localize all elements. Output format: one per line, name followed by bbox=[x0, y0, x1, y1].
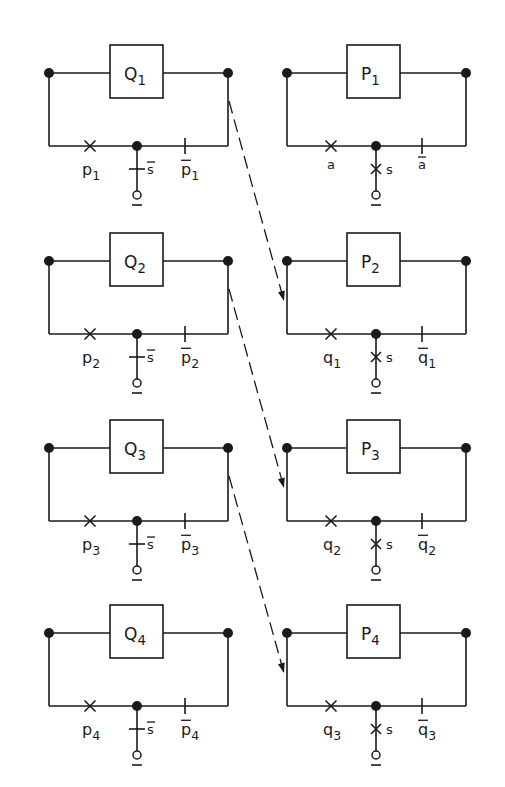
svg-text:s: s bbox=[386, 722, 393, 737]
svg-text:s: s bbox=[386, 350, 393, 365]
svg-text:s: s bbox=[147, 537, 154, 552]
terminal-icon bbox=[372, 379, 380, 387]
terminal-icon bbox=[133, 566, 141, 574]
svg-text:s: s bbox=[147, 350, 154, 365]
arrowhead-icon bbox=[278, 290, 285, 301]
relay-box bbox=[347, 45, 400, 98]
node-dot bbox=[223, 443, 233, 453]
svg-text:p4: p4 bbox=[181, 720, 199, 743]
svg-text:s: s bbox=[147, 722, 154, 737]
svg-text:p3: p3 bbox=[82, 535, 100, 558]
contact-label-right: p1 bbox=[181, 160, 199, 183]
arrowhead-icon bbox=[278, 662, 285, 673]
circuit-p4: P4q3sq3 bbox=[282, 605, 471, 765]
terminal-icon bbox=[133, 191, 141, 199]
arrowhead-icon bbox=[278, 477, 285, 488]
contact-label-left: p3 bbox=[82, 535, 100, 558]
circuit-p2: P2q1sq1 bbox=[282, 233, 471, 393]
node-dot bbox=[282, 443, 292, 453]
svg-text:q2: q2 bbox=[418, 535, 436, 558]
svg-text:p1: p1 bbox=[82, 160, 100, 183]
node-dot bbox=[461, 443, 471, 453]
svg-text:a: a bbox=[327, 157, 335, 172]
contact-label-left: q2 bbox=[323, 535, 341, 558]
terminal-icon bbox=[372, 751, 380, 759]
stub-label: s bbox=[147, 350, 155, 365]
node-dot bbox=[461, 628, 471, 638]
arrow-q3-to-p4 bbox=[229, 476, 285, 673]
node-dot bbox=[44, 628, 54, 638]
stub-label: s bbox=[147, 162, 155, 177]
node-dot bbox=[461, 68, 471, 78]
terminal-icon bbox=[372, 566, 380, 574]
svg-text:q1: q1 bbox=[323, 348, 341, 371]
contact-label-right: q2 bbox=[418, 535, 436, 558]
contact-label-right: q1 bbox=[418, 348, 436, 371]
circuit-q3: Q3p3sp3 bbox=[44, 420, 233, 580]
contact-label-left: p2 bbox=[82, 348, 100, 371]
arrow-q2-to-p3 bbox=[229, 289, 285, 488]
arrow-q1-to-p2 bbox=[229, 101, 285, 301]
node-dot bbox=[223, 256, 233, 266]
svg-text:s: s bbox=[147, 162, 154, 177]
contact-label-right: p3 bbox=[181, 535, 199, 558]
stub-label: s bbox=[147, 722, 155, 737]
node-dot bbox=[282, 68, 292, 78]
svg-text:q2: q2 bbox=[323, 535, 341, 558]
svg-text:q1: q1 bbox=[418, 348, 436, 371]
svg-text:q3: q3 bbox=[418, 720, 436, 743]
contact-label-right: p4 bbox=[181, 720, 199, 743]
circuit-diagram: Q1p1sp1Q2p2sp2Q3p3sp3Q4p4sp4P1asaP2q1sq1… bbox=[0, 0, 505, 787]
circuit-p3: P3q2sq2 bbox=[282, 420, 471, 580]
circuit-q2: Q2p2sp2 bbox=[44, 233, 233, 393]
stub-label: s bbox=[386, 162, 393, 177]
svg-text:p2: p2 bbox=[181, 348, 199, 371]
terminal-icon bbox=[133, 379, 141, 387]
node-dot bbox=[44, 443, 54, 453]
svg-text:q3: q3 bbox=[323, 720, 341, 743]
contact-label-left: p4 bbox=[82, 720, 100, 743]
svg-text:p1: p1 bbox=[181, 160, 199, 183]
circuit-q4: Q4p4sp4 bbox=[44, 605, 233, 765]
stub-label: s bbox=[386, 350, 393, 365]
stub-label: s bbox=[147, 537, 155, 552]
node-dot bbox=[223, 628, 233, 638]
contact-label-left: p1 bbox=[82, 160, 100, 183]
node-dot bbox=[282, 628, 292, 638]
svg-text:p3: p3 bbox=[181, 535, 199, 558]
svg-text:a: a bbox=[418, 157, 426, 172]
terminal-icon bbox=[372, 191, 380, 199]
node-dot bbox=[223, 68, 233, 78]
node-dot bbox=[461, 256, 471, 266]
node-dot bbox=[44, 256, 54, 266]
stub-label: s bbox=[386, 537, 393, 552]
svg-text:p2: p2 bbox=[82, 348, 100, 371]
contact-label-right: a bbox=[418, 157, 426, 172]
contact-label-right: p2 bbox=[181, 348, 199, 371]
circuit-p1: P1asa bbox=[282, 45, 471, 205]
relay-box bbox=[347, 420, 400, 473]
circuit-q1: Q1p1sp1 bbox=[44, 45, 233, 205]
relay-box bbox=[347, 605, 400, 658]
svg-text:s: s bbox=[386, 537, 393, 552]
contact-label-left: q3 bbox=[323, 720, 341, 743]
svg-text:p4: p4 bbox=[82, 720, 100, 743]
contact-label-left: a bbox=[327, 157, 335, 172]
svg-text:s: s bbox=[386, 162, 393, 177]
contact-label-left: q1 bbox=[323, 348, 341, 371]
stub-label: s bbox=[386, 722, 393, 737]
relay-box bbox=[347, 233, 400, 286]
node-dot bbox=[44, 68, 54, 78]
contact-label-right: q3 bbox=[418, 720, 436, 743]
terminal-icon bbox=[133, 751, 141, 759]
node-dot bbox=[282, 256, 292, 266]
